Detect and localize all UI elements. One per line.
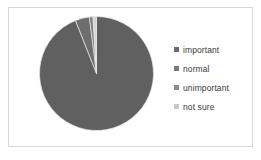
legend-item-label: important xyxy=(183,45,219,55)
legend-item-label: not sure xyxy=(183,102,215,112)
pie-slice-group xyxy=(40,17,154,131)
square-swatch-icon xyxy=(174,47,179,52)
legend-item-label: normal xyxy=(183,64,210,74)
pie-svg xyxy=(39,16,154,131)
legend-item-not-sure[interactable]: not sure xyxy=(174,98,252,115)
square-swatch-icon xyxy=(174,66,179,71)
square-swatch-icon xyxy=(174,104,179,109)
square-swatch-icon xyxy=(174,85,179,90)
pie-chart xyxy=(39,16,154,131)
legend-item-unimportant[interactable]: unimportant xyxy=(174,79,252,96)
legend-item-normal[interactable]: normal xyxy=(174,60,252,77)
chart-legend: important normal unimportant not sure xyxy=(174,41,252,117)
pie-chart-screenshot: important normal unimportant not sure xyxy=(0,0,261,160)
legend-item-label: unimportant xyxy=(183,83,229,93)
plot-area xyxy=(9,8,174,148)
chart-frame: important normal unimportant not sure xyxy=(8,7,253,147)
legend-item-important[interactable]: important xyxy=(174,41,252,58)
